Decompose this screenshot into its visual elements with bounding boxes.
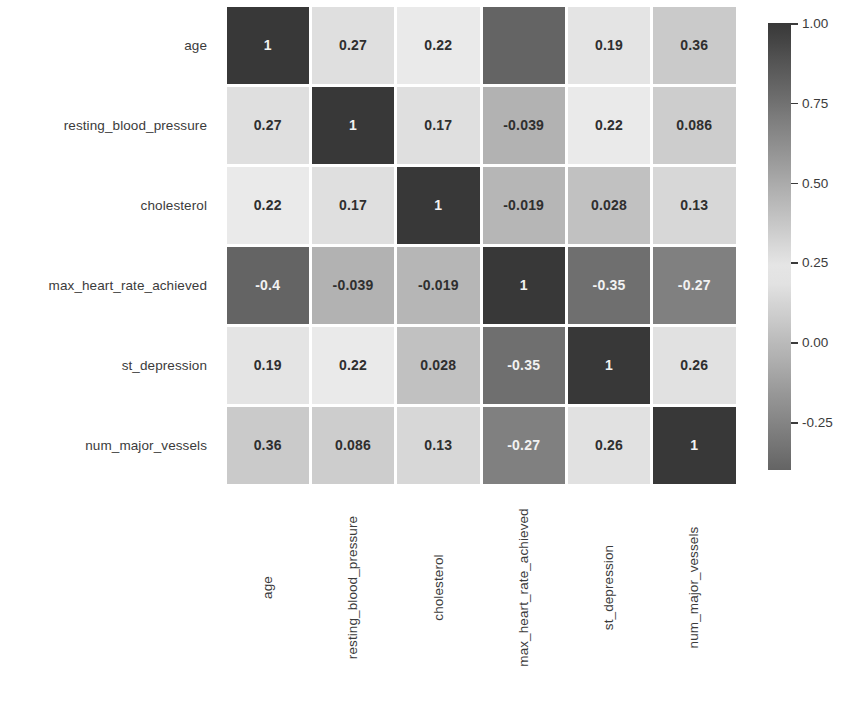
colorbar: 1.000.750.500.250.00-0.25 [768,23,858,473]
heatmap-cell: 1 [396,165,481,245]
y-axis-tick-label: cholesterol [0,165,216,245]
heatmap-cell-value: 0.27 [312,7,394,84]
heatmap-cell-value: 1 [227,7,309,84]
heatmap-cell: 1 [652,405,737,485]
heatmap-cell: -0.019 [481,165,566,245]
heatmap-cell-value: 1 [653,407,735,484]
heatmap-cell: 1 [310,85,395,165]
heatmap-cell-value: 0.22 [312,327,394,404]
heatmap-cell: 0.22 [396,5,481,85]
heatmap-cell-value: -0.27 [653,247,735,324]
heatmap-cell: 0.26 [652,325,737,405]
y-axis-tick-label: st_depression [0,325,216,405]
heatmap-cell: 0.27 [310,5,395,85]
x-axis-tick-label-holder: st_depression [566,485,651,714]
heatmap-cell-value: -0.4 [227,247,309,324]
heatmap-cell-value: 0.13 [397,407,479,484]
heatmap-cell-value: 0.26 [568,407,650,484]
heatmap-cell-value: -0.27 [483,407,565,484]
x-axis-tick-label-holder: age [225,485,310,714]
heatmap-cell: 1 [566,325,651,405]
heatmap-cell-value: 0.36 [653,7,735,84]
x-axis-tick-label-holder: max_heart_rate_achieved [481,485,566,714]
x-axis-tick-label-holder: num_major_vessels [652,485,737,714]
x-axis-tick-label: age [260,576,275,599]
y-axis-tick-labels: ageresting_blood_pressurecholesterolmax_… [0,5,216,485]
colorbar-gradient [768,23,791,470]
colorbar-tick [791,183,798,185]
x-axis-tick-label: max_heart_rate_achieved [516,508,531,666]
heatmap-cell-value: 0.028 [397,327,479,404]
heatmap-cell: 0.27 [225,85,310,165]
heatmap-cell-value: 0.086 [653,87,735,164]
colorbar-tick [791,103,798,105]
heatmap-cell: 0.13 [396,405,481,485]
colorbar-tick [791,23,798,25]
colorbar-tick [791,262,798,264]
heatmap-cell-value: 0.22 [227,167,309,244]
heatmap-cell: -0.039 [310,245,395,325]
heatmap-cell-value: -0.039 [483,87,565,164]
heatmap-cell: 0.17 [310,165,395,245]
heatmap-cell-value: 0.27 [227,87,309,164]
colorbar-tick-label: -0.25 [802,415,833,430]
x-axis-tick-label: num_major_vessels [687,527,702,649]
heatmap-cell-value: 0.086 [312,407,394,484]
x-axis-tick-label: cholesterol [431,554,446,620]
y-axis-tick-label: num_major_vessels [0,405,216,485]
heatmap-cell-value: 0.13 [653,167,735,244]
heatmap-cell: -0.039 [481,85,566,165]
heatmap-cell-value: 1 [483,247,565,324]
colorbar-tick-label: 0.25 [802,255,828,270]
heatmap-cell: 0.22 [225,165,310,245]
heatmap-cell-value: 0.028 [568,167,650,244]
heatmap-cell-value: -0.35 [483,327,565,404]
correlation-heatmap-figure: ageresting_blood_pressurecholesterolmax_… [0,0,858,714]
heatmap-cell-value: 0.17 [397,87,479,164]
colorbar-tick-label: 0.75 [802,95,828,110]
heatmap-cell: 0.22 [566,85,651,165]
x-axis-tick-label: resting_blood_pressure [345,516,360,659]
heatmap-cell: 0.22 [310,325,395,405]
heatmap-cell: 0.19 [566,5,651,85]
colorbar-tick-label: 1.00 [802,16,828,31]
colorbar-tick-label: 0.00 [802,335,828,350]
heatmap-cell: -0.4 [481,5,566,85]
heatmap-cell: 0.086 [652,85,737,165]
x-axis-tick-label-holder: resting_blood_pressure [310,485,395,714]
heatmap-cell: -0.019 [396,245,481,325]
heatmap-cell-value: 1 [312,87,394,164]
heatmap-cell: -0.27 [481,405,566,485]
heatmap-cell-value: -0.019 [483,167,565,244]
colorbar-tick-label: 0.50 [802,175,828,190]
heatmap-cell-value: 1 [397,167,479,244]
x-axis-tick-label-holder: cholesterol [396,485,481,714]
heatmap-cell: 0.36 [225,405,310,485]
heatmap-cell-value: 0.26 [653,327,735,404]
heatmap-cell-value: 0.22 [397,7,479,84]
heatmap-cell-value: 0.19 [568,7,650,84]
heatmap-cell-value: 0.22 [568,87,650,164]
heatmap-cell-value: 0.36 [227,407,309,484]
heatmap-cell-value: -0.019 [397,247,479,324]
x-axis-tick-label: st_depression [601,545,616,630]
heatmap-cell: 0.086 [310,405,395,485]
heatmap-cell-value: 1 [568,327,650,404]
heatmap-cell-value: -0.039 [312,247,394,324]
heatmap-grid: 10.270.22-0.40.190.360.2710.17-0.0390.22… [225,5,737,485]
heatmap-cell: 0.028 [566,165,651,245]
heatmap-cell-value: -0.35 [568,247,650,324]
colorbar-tick [791,422,798,424]
colorbar-tick [791,342,798,344]
y-axis-tick-label: age [0,5,216,85]
heatmap-cell: 0.13 [652,165,737,245]
heatmap-cell: -0.35 [481,325,566,405]
heatmap-cell: -0.27 [652,245,737,325]
heatmap-cell: 0.028 [396,325,481,405]
heatmap-cell-value: 0.17 [312,167,394,244]
heatmap-cell-value: 0.19 [227,327,309,404]
heatmap-cell: 0.36 [652,5,737,85]
heatmap-cell: 0.17 [396,85,481,165]
heatmap-cell: 1 [481,245,566,325]
heatmap-cell: 0.19 [225,325,310,405]
